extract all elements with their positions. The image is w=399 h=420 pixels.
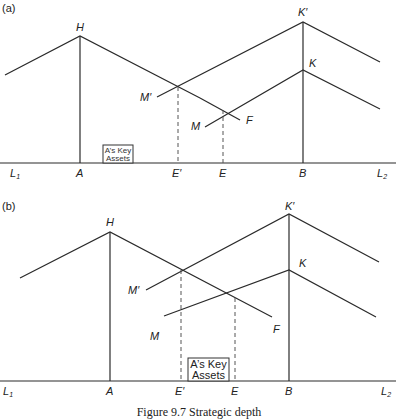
label-K-prime-b: K′ [285,200,295,212]
label-L1-b: L1 [3,385,13,398]
label-F-b: F [273,323,281,335]
label-K: K [309,57,317,69]
label-B-b: B [285,385,292,397]
label-M: M [191,120,201,132]
label-H-b: H [106,216,114,228]
label-L2: L2 [377,167,387,180]
panel-a-tag: (a) [2,2,15,14]
curve-M-K [205,70,380,127]
label-B: B [299,167,306,179]
label-H: H [76,21,84,33]
label-M-prime: M′ [140,91,152,103]
panel-b-tag: (b) [2,200,15,212]
label-A: A [75,167,83,179]
key-assets-line2-a: Assets [106,154,130,163]
figure-caption: Figure 9.7 Strategic depth [137,405,262,419]
panel-b: (b) A’s Key Assets H K′ K M′ M F L1 A E′… [0,200,396,398]
label-K-b: K [299,257,307,269]
curve-M-prime-K-prime [157,22,380,97]
label-M-b: M [150,330,160,342]
panel-a: (a) A’s Key Assets H K′ K M′ M F L1 A E′… [0,2,396,180]
label-F: F [246,114,254,126]
curve-H-F-b [20,232,272,317]
strategic-depth-figure: (a) A’s Key Assets H K′ K M′ M F L1 A E′… [0,0,399,420]
label-M-prime-b: M′ [128,284,140,296]
label-A-b: A [105,385,113,397]
line-HF [200,98,240,120]
label-E-b: E [231,385,239,397]
label-K-prime: K′ [298,6,308,18]
label-L1: L1 [10,167,20,180]
key-assets-line2-b: Assets [192,369,226,381]
label-E-prime: E′ [172,167,182,179]
curve-H [5,36,200,98]
label-E: E [219,167,227,179]
label-E-prime-b: E′ [175,385,185,397]
label-L2-b: L2 [381,385,391,398]
